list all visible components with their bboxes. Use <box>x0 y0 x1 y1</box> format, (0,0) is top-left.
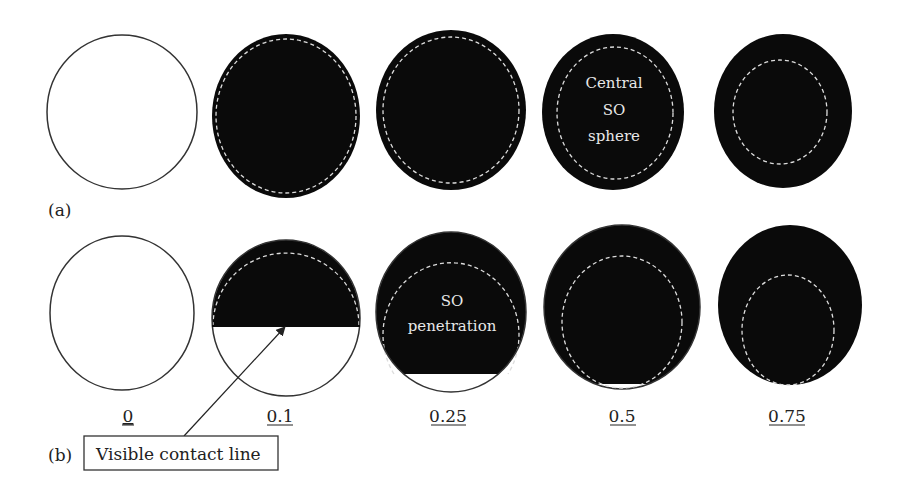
so-fill <box>200 230 380 326</box>
circle-b-0 <box>50 236 194 390</box>
so-penetration-line1: SO <box>441 292 464 310</box>
central-so-sphere-line1: Central <box>586 74 643 92</box>
circle-b-0.5 <box>540 220 710 389</box>
value-label-0: 0 <box>123 406 134 426</box>
value-label-0.25: 0.25 <box>429 406 467 426</box>
circle-a-0.75 <box>714 34 852 188</box>
value-label-0.75: 0.75 <box>768 406 806 426</box>
panel-label-b: (b) <box>48 445 72 465</box>
value-label-0.1: 0.1 <box>266 406 293 426</box>
figure-canvas: Central SO sphere (a) SO penetration <box>0 0 901 489</box>
so-fill <box>540 220 710 384</box>
central-so-sphere-line3: sphere <box>588 127 640 145</box>
so-penetration-line2: penetration <box>408 317 497 335</box>
callout-text: Visible contact line <box>95 444 261 464</box>
circle-b-0.25: SO penetration <box>370 225 535 392</box>
central-so-sphere-line2: SO <box>603 101 626 119</box>
circle-a-0.1 <box>212 34 360 198</box>
panel-label-a: (a) <box>48 200 71 220</box>
panel-b: SO penetration 0 0.1 0.25 0.5 0.75 <box>48 220 862 470</box>
circle-a-0 <box>47 35 197 189</box>
panel-a: Central SO sphere (a) <box>47 30 852 220</box>
circle-b-0.1 <box>200 230 380 396</box>
value-labels: 0 0.1 0.25 0.5 0.75 <box>122 406 806 426</box>
circle-a-0.5: Central SO sphere <box>542 34 684 190</box>
value-label-0.5: 0.5 <box>608 406 635 426</box>
circle-b-0.75 <box>718 225 862 385</box>
circle-a-0.25 <box>376 30 526 190</box>
